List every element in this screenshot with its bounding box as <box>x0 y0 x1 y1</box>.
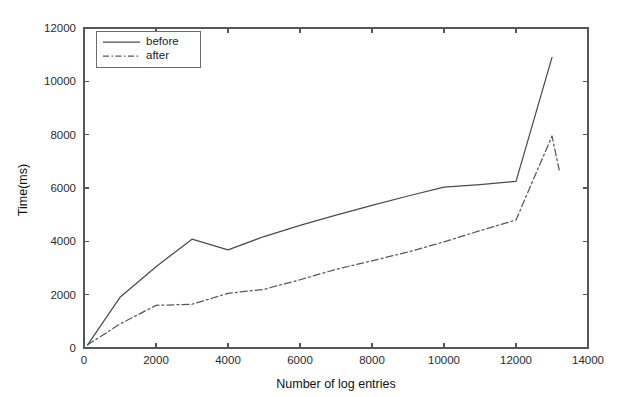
x-tick-label: 12000 <box>500 354 532 366</box>
x-tick-label: 6000 <box>287 354 313 366</box>
x-tick-label: 2000 <box>143 354 169 366</box>
chart-background <box>0 0 631 397</box>
legend-label-before: before <box>146 35 179 47</box>
y-tick-label: 10000 <box>44 75 76 87</box>
x-tick-label: 10000 <box>428 354 460 366</box>
y-tick-label: 4000 <box>50 235 76 247</box>
line-chart: 02000400060008000100001200014000 0200040… <box>0 0 631 397</box>
chart-legend: beforeafter <box>96 31 200 67</box>
x-tick-label: 14000 <box>572 354 604 366</box>
legend-label-after: after <box>146 49 169 61</box>
y-tick-label: 2000 <box>50 289 76 301</box>
y-axis-title: Time(ms) <box>16 164 30 216</box>
x-tick-label: 8000 <box>359 354 385 366</box>
y-tick-label: 12000 <box>44 22 76 34</box>
x-axis-title: Number of log entries <box>276 377 396 391</box>
y-tick-label: 0 <box>70 342 76 354</box>
x-tick-label: 0 <box>81 354 87 366</box>
chart-figure: 02000400060008000100001200014000 0200040… <box>0 0 631 397</box>
y-tick-label: 6000 <box>50 182 76 194</box>
y-tick-label: 8000 <box>50 129 76 141</box>
x-tick-label: 4000 <box>215 354 241 366</box>
